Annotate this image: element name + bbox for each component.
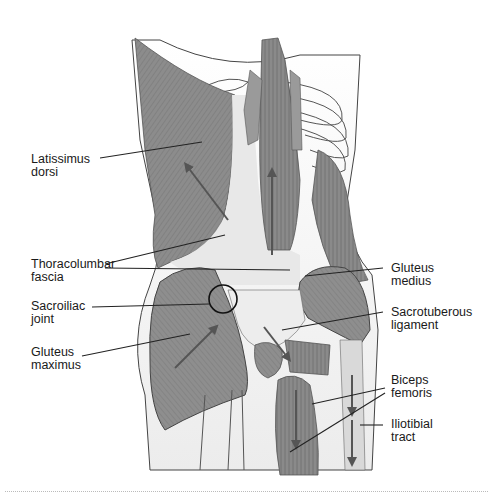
label-biceps-femoris: Biceps femoris xyxy=(391,374,432,400)
label-sacroiliac-joint: Sacroiliac joint xyxy=(31,300,85,326)
deep-hip-muscles xyxy=(255,340,330,378)
label-iliotibial-tract: Iliotibial tract xyxy=(391,418,433,444)
label-sacrotuberous-ligament: Sacrotuberous ligament xyxy=(391,306,472,332)
label-thoracolumbar-fascia: Thoracolumbar fascia xyxy=(31,258,115,284)
label-gluteus-maximus: Gluteus maximus xyxy=(31,346,81,372)
label-latissimus-dorsi: Latissimus dorsi xyxy=(31,153,90,179)
bottom-divider xyxy=(5,491,488,492)
label-gluteus-medius: Gluteus medius xyxy=(391,262,434,288)
